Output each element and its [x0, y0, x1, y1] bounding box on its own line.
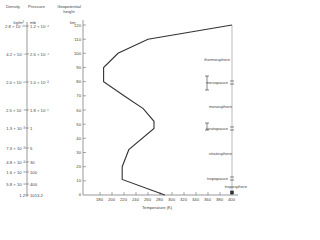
y-tick: 60 [66, 108, 81, 113]
annotation-tropopause: tropopause [190, 176, 228, 181]
y-tick: 100 [66, 51, 81, 56]
y-tick: 0 [66, 192, 81, 197]
x-tick: 240 [132, 197, 139, 202]
annotation-stratosphere: stratosphere [190, 151, 232, 156]
x-tick: 260 [144, 197, 151, 202]
x-tick: 180 [96, 197, 103, 202]
y-tick: 70 [66, 93, 81, 98]
x-tick: 200 [108, 197, 115, 202]
y-tick: 90 [66, 65, 81, 70]
y-tick: 50 [66, 122, 81, 127]
x-tick: 280 [156, 197, 163, 202]
y-tick: 110 [66, 37, 81, 42]
x-tick: 300 [168, 197, 175, 202]
x-tick: 320 [180, 197, 187, 202]
y-tick: 20 [66, 164, 81, 169]
y-tick: 30 [66, 150, 81, 155]
y-tick: 80 [66, 79, 81, 84]
y-tick: 10 [66, 178, 81, 183]
x-tick: 400 [228, 197, 235, 202]
annotation-stratopause: stratopause [190, 126, 228, 131]
x-tick: 380 [216, 197, 223, 202]
x-tick: 220 [120, 197, 127, 202]
y-tick: 40 [66, 136, 81, 141]
temperature-curve [104, 25, 232, 195]
annotation-mesosphere: mesosphere [190, 104, 232, 109]
annotation-thermosphere: thermosphere [190, 57, 230, 62]
x-tick: 340 [192, 197, 199, 202]
annotation-mesopause: mesopause [190, 80, 228, 85]
y-tick: 120 [66, 23, 81, 28]
x-tick: 360 [204, 197, 211, 202]
annotation-troposphere: troposphere [205, 184, 247, 189]
x-axis-title: Temperature (K) [142, 205, 172, 210]
